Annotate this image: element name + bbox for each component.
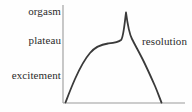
axis-label-excitement: excitement	[12, 70, 61, 81]
sexual-response-cycle-figure: orgasm plateau excitement resolution	[0, 0, 192, 112]
response-curve	[66, 13, 162, 103]
axis-label-orgasm: orgasm	[28, 6, 61, 17]
axis-label-resolution: resolution	[142, 36, 187, 47]
axis-label-plateau: plateau	[29, 35, 61, 46]
